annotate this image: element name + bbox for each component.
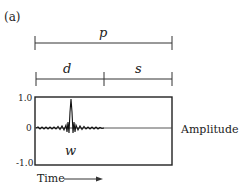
- ds-bracket: [36, 72, 172, 86]
- amplitude-label: Amplitude: [181, 124, 239, 135]
- y-tick-0: 0: [26, 124, 32, 133]
- y-tick-1: 1.0: [18, 94, 32, 103]
- plot-frame: [35, 97, 172, 165]
- wavelet-label: w: [65, 144, 76, 157]
- diagram-canvas: [0, 0, 240, 194]
- time-label: Time: [37, 173, 65, 184]
- s-label: s: [135, 62, 142, 75]
- d-label: d: [63, 62, 71, 75]
- p-label: p: [99, 26, 107, 39]
- time-arrow-icon: [64, 177, 103, 182]
- y-tick-neg1: -1.0: [16, 159, 33, 168]
